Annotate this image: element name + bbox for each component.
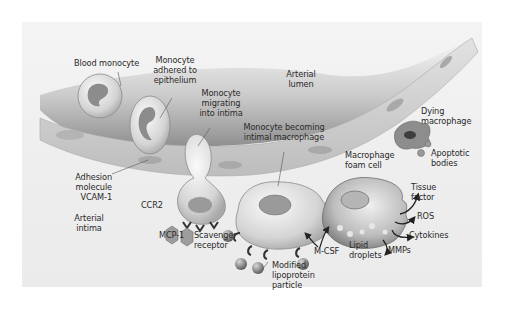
label-line: Modified [272, 260, 315, 270]
label-line: lipoprotein [272, 270, 315, 280]
foam-cell [322, 177, 408, 248]
label-line: epithelium [150, 75, 200, 85]
adhered-monocyte-cell [130, 96, 170, 154]
label-line: macrophage [421, 116, 471, 126]
label-line: particle [272, 280, 315, 290]
label-line: Monocyte [196, 88, 246, 98]
label-arterial-intima: Arterial intima [71, 213, 107, 233]
diagram-canvas: Blood monocyte Monocyte adhered to epith… [0, 0, 505, 314]
label-line: Macrophage [345, 150, 394, 160]
label-line: receptor [194, 240, 237, 250]
label-line: migrating [196, 98, 246, 108]
label-ros: ROS [417, 211, 434, 221]
label-scavenger-receptor: Scavenger receptor [194, 230, 237, 250]
label-line: bodies [431, 158, 469, 168]
label-macrophage-foam-cell: Macrophage foam cell [345, 150, 394, 170]
label-line: lumen [281, 79, 321, 89]
label-line: Arterial [281, 69, 321, 79]
label-line: factor [411, 192, 436, 202]
label-line: intimal macrophage [241, 132, 327, 142]
label-line: intima [71, 223, 107, 233]
label-modified-lipoprotein-particle: Modified lipoprotein particle [272, 260, 315, 290]
label-ccr2: CCR2 [141, 200, 163, 210]
label-lipid-droplets: Lipid droplets [349, 240, 382, 260]
label-line: Monocyte [150, 55, 200, 65]
label-adhesion-molecule-vcam1: Adhesion molecule VCAM-1 [68, 172, 112, 202]
label-apoptotic-bodies: Apoptotic bodies [431, 148, 469, 168]
label-monocyte-migrating: Monocyte migrating into intima [196, 88, 246, 118]
label-line: Arterial [71, 213, 107, 223]
illustration [0, 0, 505, 314]
label-line: Scavenger [194, 230, 237, 240]
label-line: Monocyte becoming [241, 122, 327, 132]
label-line: adhered to [150, 65, 200, 75]
label-tissue-factor: Tissue factor [411, 182, 436, 202]
label-line: VCAM-1 [68, 192, 112, 202]
label-line: into intima [196, 108, 246, 118]
label-mmps: MMPs [388, 245, 411, 255]
label-line: Tissue [411, 182, 436, 192]
label-monocyte-adhered: Monocyte adhered to epithelium [150, 55, 200, 85]
label-line: droplets [349, 250, 382, 260]
label-arterial-lumen: Arterial lumen [281, 69, 321, 89]
label-line: molecule [68, 182, 112, 192]
label-dying-macrophage: Dying macrophage [421, 106, 471, 126]
label-blood-monocyte: Blood monocyte [74, 58, 139, 68]
label-line: Lipid [349, 240, 382, 250]
intimal-macrophage-cell [236, 182, 328, 249]
label-monocyte-becoming-macrophage: Monocyte becoming intimal macrophage [241, 122, 327, 142]
label-mcsf: M-CSF [314, 246, 339, 256]
label-line: foam cell [345, 160, 394, 170]
label-mcp1: MCP-1 [159, 230, 184, 240]
blood-monocyte-cell [78, 74, 122, 118]
label-line: Apoptotic [431, 148, 469, 158]
label-line: Dying [421, 106, 471, 116]
label-line: Adhesion [68, 172, 112, 182]
label-cytokines: Cytokines [409, 230, 448, 240]
